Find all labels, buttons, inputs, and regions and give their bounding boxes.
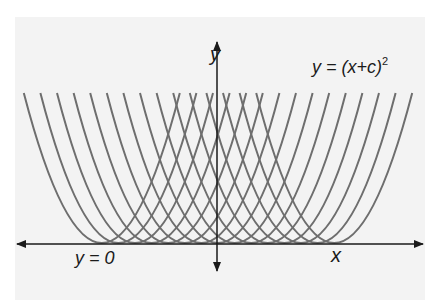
formula-base: y = (x+c) bbox=[312, 57, 382, 77]
x-axis-label: x bbox=[331, 245, 341, 265]
formula-label: y = (x+c)2 bbox=[312, 51, 388, 77]
parabola-curves bbox=[24, 93, 412, 243]
parabola-family-plot bbox=[0, 0, 440, 306]
formula-exponent: 2 bbox=[382, 55, 388, 67]
y-axis-label: y bbox=[210, 44, 220, 64]
envelope-label: y = 0 bbox=[75, 248, 115, 268]
